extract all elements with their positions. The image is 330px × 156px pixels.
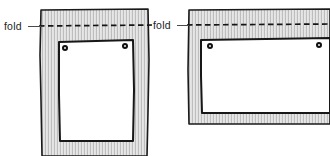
left-card-rivet-top-right (122, 43, 128, 49)
fabric-fold-diagram: fold fold (0, 0, 330, 156)
right-card-rivet-top-right (316, 42, 322, 48)
left-card (0, 0, 170, 156)
right-card (165, 0, 330, 156)
left-card-rivet-top-left (62, 45, 68, 51)
right-card-rivet-top-left (207, 43, 213, 49)
